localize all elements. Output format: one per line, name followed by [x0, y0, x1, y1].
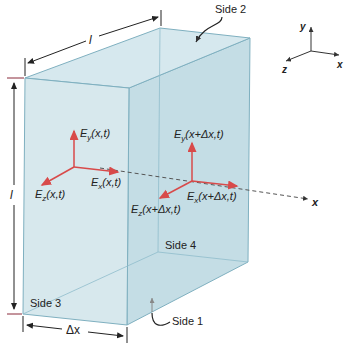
box-diagram: l l Δx x Ey(x,t) Ex(x,t) Ez(x,t) Ey(x+Δx…: [0, 0, 347, 345]
side2-label: Side 2: [215, 3, 246, 15]
legend-x-label: x: [336, 59, 343, 70]
side4-label: Side 4: [165, 239, 196, 251]
side3-label: Side 3: [30, 297, 61, 309]
svg-text:l: l: [89, 33, 92, 47]
x-axis-label: x: [311, 196, 319, 208]
svg-text:Δx: Δx: [66, 323, 80, 337]
side1-pointer: [152, 313, 170, 325]
axes-legend: y x z: [281, 21, 343, 75]
box-front-face: [23, 78, 129, 325]
side1-label: Side 1: [172, 315, 203, 327]
legend-y-label: y: [299, 21, 306, 32]
legend-z-label: z: [281, 64, 287, 75]
dimension-left-l: l: [7, 78, 24, 314]
svg-text:l: l: [10, 188, 13, 202]
diagram-canvas: l l Δx x Ey(x,t) Ex(x,t) Ez(x,t) Ey(x+Δx…: [0, 0, 347, 345]
